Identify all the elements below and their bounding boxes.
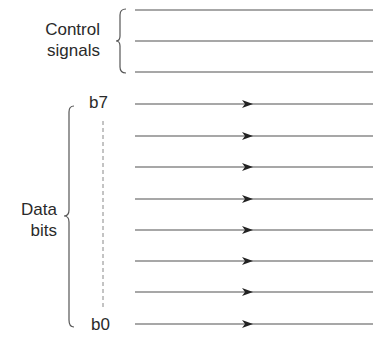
control-label-line1: Control	[20, 19, 100, 40]
lsb-label: b0	[91, 314, 110, 335]
data-brace-icon	[64, 106, 74, 327]
data-label-line2: bits	[0, 220, 57, 241]
control-brace-icon	[116, 9, 126, 73]
data-label-line1: Data	[0, 199, 57, 220]
control-label-line2: signals	[20, 40, 100, 61]
control-signals-label: Control signals	[20, 19, 100, 61]
data-bits-label: Data bits	[0, 199, 57, 241]
msb-label: b7	[89, 92, 108, 113]
